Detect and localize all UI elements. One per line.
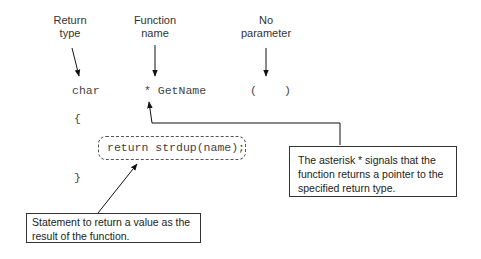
open-paren: (: [250, 84, 257, 97]
close-brace: }: [74, 171, 81, 184]
statement-callout: Statement to return a value as the resul…: [26, 213, 201, 243]
return-type-label: Return type: [50, 14, 90, 40]
function-name-code: * GetName: [144, 84, 206, 97]
return-type-code: char: [72, 84, 100, 97]
return-statement: return strdup(name);: [107, 141, 245, 154]
close-paren: ): [284, 84, 291, 97]
no-parameter-label: No parameter: [238, 14, 294, 40]
return-type-arrow: [72, 48, 79, 76]
function-name-label: Function name: [130, 14, 180, 40]
asterisk-callout: The asterisk * signals that the function…: [289, 146, 457, 197]
statement-arrow: [98, 164, 137, 213]
open-brace: {: [74, 112, 81, 125]
